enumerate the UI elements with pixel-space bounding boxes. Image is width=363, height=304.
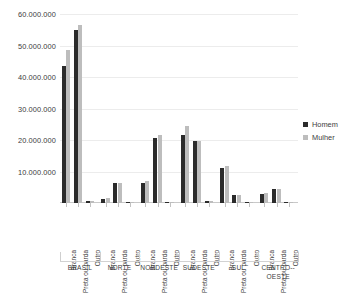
bar-homem bbox=[260, 194, 264, 203]
bar-homem bbox=[74, 30, 78, 203]
bar-group bbox=[179, 14, 219, 203]
bar-pair bbox=[141, 14, 153, 203]
bar-homem bbox=[141, 183, 145, 203]
bar-homem bbox=[272, 189, 276, 203]
y-axis-tick-label: 20.000.000 bbox=[18, 136, 56, 145]
category-labels: BrancaPreta ou pardaOutroBrancaPreta ou … bbox=[60, 206, 298, 252]
bar-pair bbox=[205, 14, 217, 203]
bar-groups bbox=[60, 14, 298, 203]
legend-item[interactable]: Mulher bbox=[303, 133, 338, 142]
bar-mulher bbox=[78, 25, 82, 203]
bar-pair bbox=[181, 14, 193, 203]
bar-pair bbox=[113, 14, 125, 203]
bar-mulher bbox=[66, 50, 70, 203]
legend-item[interactable]: Homem bbox=[303, 120, 338, 129]
y-axis-tick-label: 50.000.000 bbox=[18, 41, 56, 50]
bar-pair bbox=[126, 14, 138, 203]
bar-mulher bbox=[158, 135, 162, 203]
region-separator bbox=[298, 252, 299, 262]
y-axis-tick-label: 40.000.000 bbox=[18, 73, 56, 82]
region-label: BRASIL bbox=[60, 263, 100, 272]
bar-group bbox=[219, 14, 259, 203]
legend-swatch-icon bbox=[303, 135, 308, 140]
bar-group bbox=[258, 14, 298, 203]
bar-pair bbox=[284, 14, 296, 203]
y-axis-tick-label: 60.000.000 bbox=[18, 10, 56, 19]
bar-homem bbox=[113, 183, 117, 203]
bar-pair bbox=[272, 14, 284, 203]
legend-swatch-icon bbox=[303, 122, 308, 127]
bar-homem bbox=[153, 138, 157, 203]
bar-homem bbox=[232, 195, 236, 204]
bar-pair bbox=[74, 14, 86, 203]
legend-label: Mulher bbox=[312, 133, 335, 142]
bar-mulher bbox=[237, 195, 241, 204]
bar-homem bbox=[181, 135, 185, 203]
region-label: NORTE bbox=[100, 263, 140, 272]
bar-group bbox=[100, 14, 140, 203]
bar-pair bbox=[193, 14, 205, 203]
bar-pair bbox=[165, 14, 177, 203]
bar-mulher bbox=[225, 166, 229, 203]
region-label: SUDESTE bbox=[179, 263, 219, 272]
plot-area bbox=[60, 14, 298, 203]
bar-group bbox=[139, 14, 179, 203]
bar-mulher bbox=[264, 193, 268, 203]
bar-homem bbox=[193, 141, 197, 203]
bar-group bbox=[60, 14, 100, 203]
bar-mulher bbox=[197, 141, 201, 203]
legend-label: Homem bbox=[312, 120, 338, 129]
bar-pair bbox=[62, 14, 74, 203]
y-axis-labels: 60.000.00050.000.00040.000.00030.000.000… bbox=[0, 0, 60, 203]
bar-homem bbox=[62, 66, 66, 203]
y-axis-tick-label: 30.000.000 bbox=[18, 104, 56, 113]
bar-pair bbox=[260, 14, 272, 203]
bar-pair bbox=[245, 14, 257, 203]
bar-homem bbox=[220, 168, 224, 203]
bar-mulher bbox=[118, 183, 122, 203]
y-axis-tick-label: 10.000.000 bbox=[18, 167, 56, 176]
bar-pair bbox=[232, 14, 244, 203]
region-label: SUL bbox=[219, 263, 259, 272]
bar-mulher bbox=[145, 181, 149, 203]
region-baseline bbox=[60, 261, 298, 262]
bar-pair bbox=[101, 14, 113, 203]
bar-pair bbox=[153, 14, 165, 203]
bar-chart: 60.000.00050.000.00040.000.00030.000.000… bbox=[0, 0, 363, 304]
chart-legend: HomemMulher bbox=[303, 120, 338, 146]
region-label: CENTRO--OESTE bbox=[258, 263, 298, 281]
bar-mulher bbox=[185, 126, 189, 203]
region-labels: BRASILNORTENORDESTESUDESTESULCENTRO--OES… bbox=[60, 263, 298, 293]
region-separators bbox=[60, 252, 298, 253]
region-label: NORDESTE bbox=[139, 263, 179, 272]
bar-mulher bbox=[277, 189, 281, 203]
bar-pair bbox=[86, 14, 98, 203]
bar-pair bbox=[220, 14, 232, 203]
